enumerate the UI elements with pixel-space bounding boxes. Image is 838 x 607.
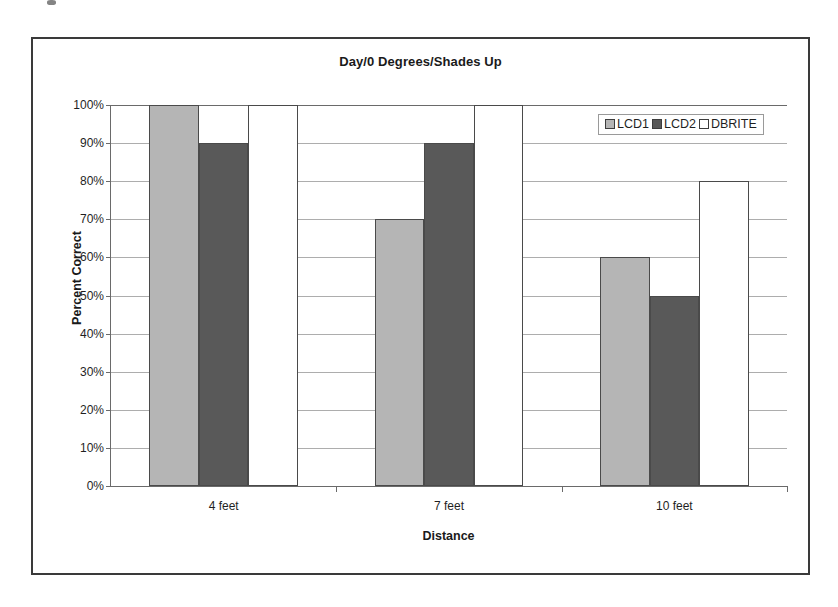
bar-dbrite-4-feet[interactable] (248, 105, 298, 486)
y-axis-tick-mark (106, 486, 111, 487)
legend-swatch-icon (605, 119, 615, 129)
bar-lcd2-10-feet[interactable] (650, 296, 700, 487)
legend-item-lcd2[interactable]: LCD2 (652, 118, 696, 131)
y-axis-tick-label: 70% (80, 212, 104, 226)
bar-groups: 4 feet7 feet10 feet (111, 105, 787, 486)
legend-swatch-icon (652, 119, 662, 129)
legend-label: LCD1 (617, 118, 649, 131)
bar-group: 7 feet (336, 105, 561, 486)
x-axis-tick-label: 10 feet (562, 499, 787, 513)
bar-lcd2-4-feet[interactable] (199, 143, 249, 486)
bar-lcd1-10-feet[interactable] (600, 257, 650, 486)
y-axis-tick-label: 100% (73, 98, 104, 112)
y-axis-tick-label: 40% (80, 327, 104, 341)
legend-item-lcd1[interactable]: LCD1 (605, 118, 649, 131)
legend-label: DBRITE (711, 118, 757, 131)
x-axis-tick-label: 7 feet (336, 499, 561, 513)
plot-area: 100%90%80%70%60%50%40%30%20%10%0% 4 feet… (110, 105, 787, 487)
scan-artifact (47, 0, 56, 5)
chart-title: Day/0 Degrees/Shades Up (33, 54, 808, 69)
y-axis-tick-label: 90% (80, 136, 104, 150)
x-axis-tick-mark (787, 486, 788, 492)
y-axis-tick-label: 50% (80, 289, 104, 303)
bar-lcd1-7-feet[interactable] (375, 219, 425, 486)
y-axis-tick-label: 10% (80, 441, 104, 455)
y-axis-tick-label: 20% (80, 403, 104, 417)
bar-dbrite-7-feet[interactable] (474, 105, 524, 486)
x-axis-tick-label: 4 feet (111, 499, 336, 513)
y-axis-tick-label: 30% (80, 365, 104, 379)
y-axis-tick-label: 60% (80, 250, 104, 264)
chart-frame: Day/0 Degrees/Shades Up Percent Correct … (31, 37, 810, 575)
bar-lcd1-4-feet[interactable] (149, 105, 199, 486)
x-axis-tick-mark (562, 486, 563, 492)
bar-lcd2-7-feet[interactable] (424, 143, 474, 486)
chart-legend: LCD1LCD2DBRITE (598, 114, 764, 135)
x-axis-title: Distance (110, 529, 787, 543)
legend-swatch-icon (699, 119, 709, 129)
y-axis-tick-label: 80% (80, 174, 104, 188)
bar-group: 4 feet (111, 105, 336, 486)
y-axis-tick-label: 0% (87, 479, 104, 493)
x-axis-tick-mark (336, 486, 337, 492)
bar-dbrite-10-feet[interactable] (699, 181, 749, 486)
bar-group: 10 feet (562, 105, 787, 486)
legend-item-dbrite[interactable]: DBRITE (699, 118, 757, 131)
legend-label: LCD2 (664, 118, 696, 131)
